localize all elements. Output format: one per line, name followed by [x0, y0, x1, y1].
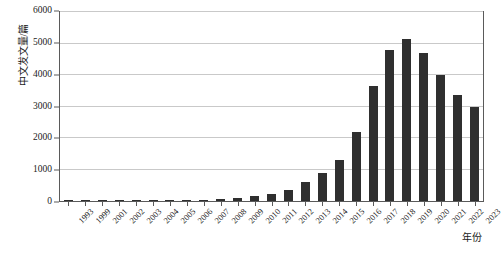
x-axis-tick-label: 2014	[331, 207, 349, 225]
bar	[149, 200, 158, 201]
y-axis-ticks: 0100020003000400050006000	[0, 11, 59, 202]
x-axis-tick-label: 2015	[348, 207, 366, 225]
y-axis-tick-label: 5000	[33, 38, 52, 48]
x-axis-tick-label: 2003	[145, 207, 163, 225]
bar	[284, 190, 293, 201]
y-axis-tick-label: 3000	[33, 102, 52, 112]
x-axis-tick-label: 2006	[196, 207, 214, 225]
x-axis-tick-label: 2017	[382, 207, 400, 225]
bar	[98, 200, 107, 201]
x-axis-tick-label: 2002	[128, 207, 146, 225]
bar	[436, 75, 445, 201]
x-axis-tick-label: 2005	[179, 207, 197, 225]
bar	[301, 182, 310, 201]
bar-series	[60, 12, 483, 201]
x-axis-tick-label: 2018	[399, 207, 417, 225]
bar	[352, 132, 361, 201]
x-axis-tick-label: 2023	[484, 207, 502, 225]
bar	[182, 200, 191, 201]
y-axis-tick-label: 0	[47, 197, 52, 207]
y-axis-tick-label: 1000	[33, 165, 52, 175]
x-axis-tick-label: 1993	[77, 207, 95, 225]
x-axis-tick-label: 2013	[314, 207, 332, 225]
bar	[132, 200, 141, 201]
x-axis-tick-label: 2020	[433, 207, 451, 225]
bar	[233, 198, 242, 201]
bar	[165, 200, 174, 201]
x-axis-tick-label: 2007	[213, 207, 231, 225]
y-axis-tick-label: 2000	[33, 134, 52, 144]
bar	[369, 86, 378, 201]
x-axis-tick-label: 2021	[450, 207, 468, 225]
bar	[419, 53, 428, 201]
x-axis-tick-label: 1999	[94, 207, 112, 225]
x-axis-tick-labels: 1993199920012002200320042005200620072008…	[60, 205, 483, 251]
bar	[250, 196, 259, 201]
bar	[64, 200, 73, 201]
bar	[385, 50, 394, 201]
bar	[318, 173, 327, 201]
bar	[199, 200, 208, 201]
x-axis-tick-label: 2019	[416, 207, 434, 225]
x-axis-tick-label: 2009	[247, 207, 265, 225]
bar	[216, 199, 225, 201]
x-axis-title: 年份	[462, 232, 482, 243]
bar	[81, 200, 90, 201]
bar	[267, 194, 276, 201]
x-axis-tick-label: 2008	[230, 207, 248, 225]
y-axis-tick-label: 6000	[33, 6, 52, 16]
bar	[470, 107, 479, 201]
x-axis-tick-label: 2016	[365, 207, 383, 225]
x-axis-tick-label: 2001	[111, 207, 129, 225]
bar	[402, 39, 411, 201]
bar	[115, 200, 124, 201]
x-axis-tick-label: 2012	[297, 207, 315, 225]
x-axis-tick-label: 2022	[467, 207, 485, 225]
bar	[453, 95, 462, 201]
bar	[335, 160, 344, 201]
x-axis-tick-label: 2010	[264, 207, 282, 225]
y-axis-tick-label: 4000	[33, 70, 52, 80]
x-axis-tick-label: 2011	[280, 207, 298, 225]
x-axis-tick-label: 2004	[162, 207, 180, 225]
